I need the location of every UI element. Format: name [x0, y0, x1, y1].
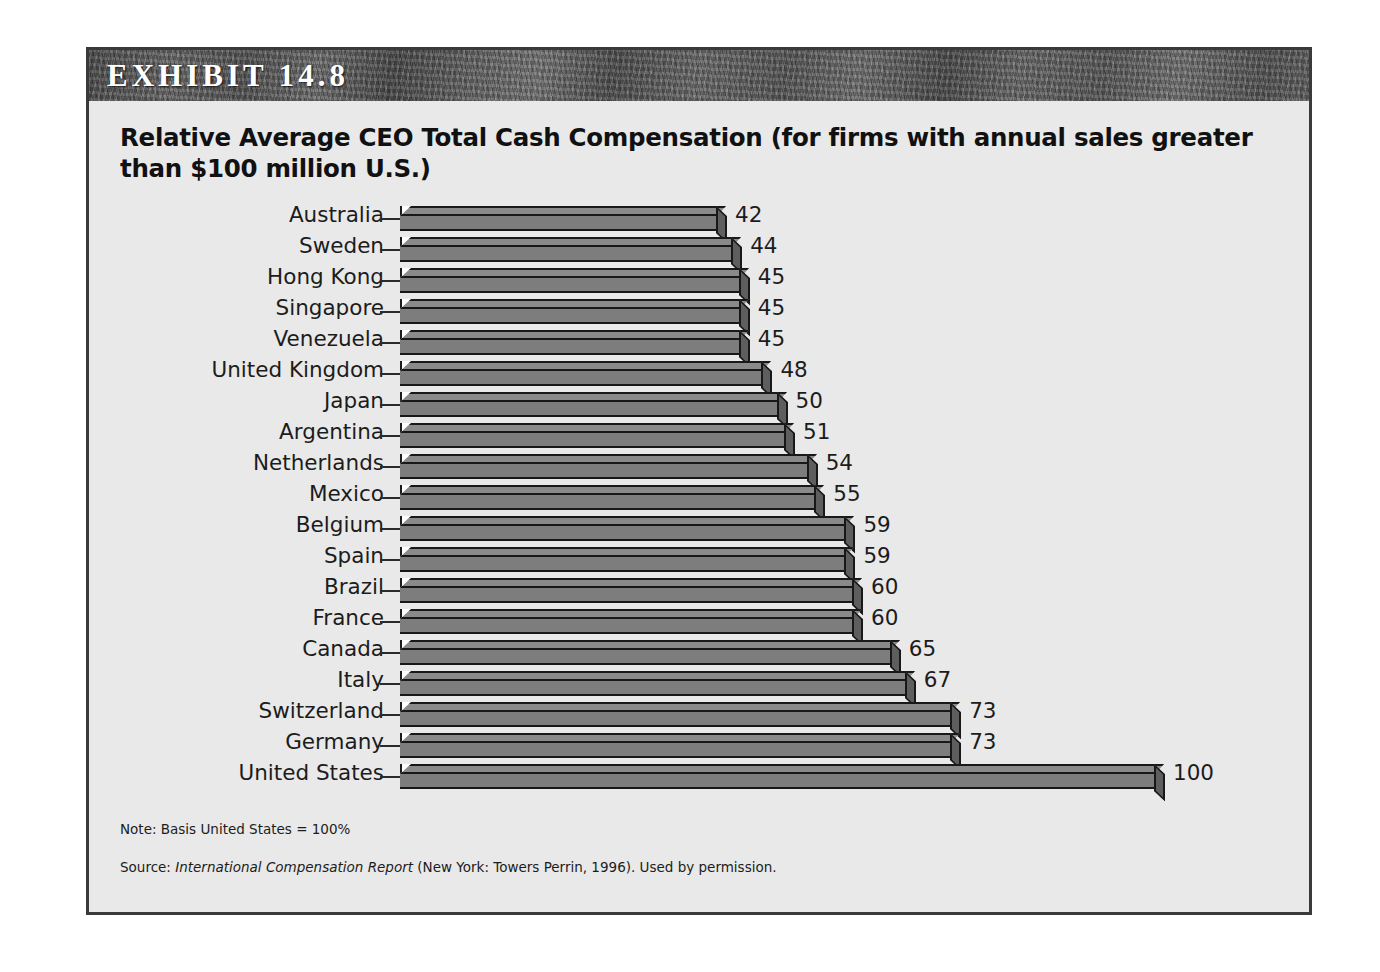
bar-category-label: Netherlands — [64, 451, 384, 475]
bar-category-label: Germany — [64, 730, 384, 754]
bar-front-face — [400, 679, 906, 696]
bar-row: Venezuela45 — [89, 324, 1309, 355]
bar-front-face — [400, 462, 808, 479]
axis-tick — [380, 342, 400, 344]
bar-value-label: 45 — [758, 265, 785, 289]
bar-category-label: Argentina — [64, 420, 384, 444]
axis-tick — [380, 373, 400, 375]
axis-tick — [380, 652, 400, 654]
bar-front-face — [400, 586, 853, 603]
bar — [400, 702, 951, 723]
axis-tick — [380, 280, 400, 282]
bar-row: United States100 — [89, 758, 1309, 789]
bar-value-label: 51 — [803, 420, 830, 444]
bar — [400, 454, 808, 475]
axis-tick — [380, 528, 400, 530]
bar — [400, 485, 815, 506]
chart-note: Note: Basis United States = 100% — [120, 820, 350, 838]
bar-chart: Australia42Sweden44Hong Kong45Singapore4… — [89, 200, 1309, 778]
bar-row: Spain59 — [89, 541, 1309, 572]
axis-tick — [380, 435, 400, 437]
source-prefix: Source: — [120, 859, 175, 875]
bar-category-label: Venezuela — [64, 327, 384, 351]
bar-value-label: 100 — [1173, 761, 1214, 785]
exhibit-panel: EXHIBIT 14.8 Relative Average CEO Total … — [86, 47, 1312, 915]
bar-category-label: Italy — [64, 668, 384, 692]
bar-row: Netherlands54 — [89, 448, 1309, 479]
bar-row: France60 — [89, 603, 1309, 634]
bar-category-label: Hong Kong — [64, 265, 384, 289]
bar-front-face — [400, 617, 853, 634]
bar-row: Canada65 — [89, 634, 1309, 665]
bar-value-label: 50 — [796, 389, 823, 413]
source-suffix: (New York: Towers Perrin, 1996). Used by… — [413, 859, 777, 875]
bar-front-face — [400, 524, 845, 541]
bar-category-label: United States — [64, 761, 384, 785]
bar-category-label: France — [64, 606, 384, 630]
bar-front-face — [400, 772, 1155, 789]
bar — [400, 764, 1155, 785]
bar — [400, 392, 778, 413]
bar-category-label: Mexico — [64, 482, 384, 506]
bar-row: Brazil60 — [89, 572, 1309, 603]
bar-value-label: 45 — [758, 327, 785, 351]
bar-front-face — [400, 307, 740, 324]
bar-category-label: Sweden — [64, 234, 384, 258]
axis-tick — [380, 311, 400, 313]
bar-category-label: Belgium — [64, 513, 384, 537]
bar — [400, 330, 740, 351]
bar-front-face — [400, 369, 762, 386]
bar — [400, 268, 740, 289]
bar — [400, 299, 740, 320]
bar-end-cap — [1154, 764, 1165, 801]
bar — [400, 206, 717, 227]
bar-value-label: 59 — [863, 544, 890, 568]
bar — [400, 578, 853, 599]
bar-category-label: Canada — [64, 637, 384, 661]
bar-front-face — [400, 555, 845, 572]
bar-category-label: United Kingdom — [64, 358, 384, 382]
axis-tick — [380, 404, 400, 406]
bar — [400, 361, 762, 382]
bar-front-face — [400, 741, 951, 758]
bar-category-label: Brazil — [64, 575, 384, 599]
bar — [400, 237, 732, 258]
axis-tick — [380, 249, 400, 251]
bar-front-face — [400, 400, 778, 417]
bar-row: Japan50 — [89, 386, 1309, 417]
chart-title: Relative Average CEO Total Cash Compensa… — [120, 122, 1277, 184]
bar-front-face — [400, 431, 785, 448]
bar-row: Germany73 — [89, 727, 1309, 758]
bar-front-face — [400, 276, 740, 293]
bar-category-label: Japan — [64, 389, 384, 413]
axis-tick — [380, 745, 400, 747]
bar — [400, 547, 845, 568]
bar-value-label: 45 — [758, 296, 785, 320]
bar — [400, 423, 785, 444]
axis-tick — [380, 590, 400, 592]
bar-row: Australia42 — [89, 200, 1309, 231]
bar-row: Argentina51 — [89, 417, 1309, 448]
source-title: International Compensation Report — [175, 859, 413, 875]
axis-tick — [380, 621, 400, 623]
bar-front-face — [400, 214, 717, 231]
bar-row: Italy67 — [89, 665, 1309, 696]
bar-category-label: Switzerland — [64, 699, 384, 723]
bar — [400, 733, 951, 754]
bar-value-label: 67 — [924, 668, 951, 692]
exhibit-number-label: EXHIBIT 14.8 — [107, 57, 349, 95]
title-container: Relative Average CEO Total Cash Compensa… — [89, 101, 1309, 184]
bar-row: Singapore45 — [89, 293, 1309, 324]
exhibit-header-band: EXHIBIT 14.8 — [89, 50, 1309, 101]
bar — [400, 609, 853, 630]
bar-category-label: Singapore — [64, 296, 384, 320]
bar-value-label: 73 — [969, 730, 996, 754]
bar-category-label: Australia — [64, 203, 384, 227]
bar-value-label: 60 — [871, 606, 898, 630]
axis-tick — [380, 714, 400, 716]
bar-value-label: 54 — [826, 451, 853, 475]
bar — [400, 671, 906, 692]
bar — [400, 640, 891, 661]
axis-tick — [380, 466, 400, 468]
bar-value-label: 55 — [833, 482, 860, 506]
